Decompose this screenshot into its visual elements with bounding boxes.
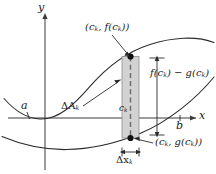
- lower-bound-label-a: a: [21, 100, 28, 111]
- upper-bound-label-b: b: [176, 120, 183, 131]
- lower-point-dot: [127, 135, 133, 141]
- x-axis-label: x: [199, 110, 205, 121]
- center-label-sub: k: [124, 107, 127, 113]
- upper-curve-f: [4, 38, 214, 119]
- area-label-sub: k: [75, 104, 79, 111]
- area-label-delta: ΔA: [61, 100, 75, 111]
- lower-point-label-open: (c: [155, 136, 165, 147]
- upper-point-label-end: )): [122, 21, 130, 32]
- height-label-end: ): [205, 67, 209, 78]
- width-label: Δxk: [116, 155, 133, 166]
- lower-point-label-end: )): [194, 136, 202, 147]
- lower-point-label-mid: , g(c: [168, 136, 190, 147]
- height-label-mid: ) − g(c: [167, 67, 202, 78]
- upper-point-label-open: (c: [85, 21, 95, 32]
- center-label-ck: ck: [119, 104, 127, 114]
- top-label-leader: [112, 35, 130, 57]
- height-label: f(ck) − g(ck): [150, 68, 209, 79]
- figure-area-between-curves: y x a b (ck, f(ck)) f(ck) − g(ck) ΔAk ck…: [0, 0, 216, 174]
- height-label-lead: f(c: [150, 67, 163, 78]
- area-label-leader: [83, 80, 122, 106]
- bottom-label-leader: [134, 137, 153, 143]
- upper-point-label: (ck, f(ck)): [85, 22, 129, 33]
- y-axis: [42, 13, 47, 170]
- width-label-sub: k: [129, 158, 133, 165]
- lower-point-label: (ck, g(ck)): [155, 137, 202, 148]
- representative-rectangle: [122, 57, 139, 139]
- y-axis-label: y: [38, 2, 44, 13]
- area-label: ΔAk: [61, 101, 79, 112]
- upper-point-label-mid: , f(c: [98, 21, 118, 32]
- width-label-delta: Δx: [116, 154, 129, 165]
